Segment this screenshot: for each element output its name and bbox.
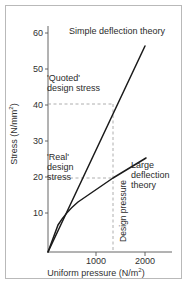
x-axis-title: Uniform pressure (N/m2)	[26, 266, 166, 278]
y-tick-label-20: 20	[25, 172, 43, 182]
y-axis-title: Stress (N/mm2)	[7, 94, 19, 174]
annotation-large-line-2: deflection	[131, 170, 170, 180]
x-axis-title-close: )	[142, 268, 145, 278]
annotation-quoted-line-2: design stress	[47, 83, 100, 93]
annotation-design-pressure: Design pressure	[118, 180, 128, 242]
annotation-large-line-1: Large	[131, 160, 170, 170]
annotation-real-line-3: stress	[47, 172, 74, 182]
y-tick-label-40: 40	[25, 100, 43, 110]
annotation-large-line-3: theory	[131, 180, 170, 190]
y-tick-label-50: 50	[25, 64, 43, 74]
annotation-real-design-stress: 'Real' design stress	[47, 152, 74, 182]
annotation-real-line-1: 'Real'	[47, 152, 74, 162]
x-tick-label-1000: 1000	[78, 256, 114, 266]
annotation-large-deflection-theory: Large deflection theory	[131, 160, 170, 190]
figure-container: 60 50 40 30 20 10 1000 2000 Stress (N/mm…	[0, 0, 189, 297]
y-tick-label-60: 60	[25, 28, 43, 38]
y-axis-title-close: )	[9, 103, 19, 106]
y-axis-title-text: Stress (N/mm	[9, 110, 19, 165]
x-axis-title-text: Uniform pressure (N/m	[47, 268, 138, 278]
y-tick-label-10: 10	[25, 208, 43, 218]
annotation-simple-deflection-theory: Simple deflection theory	[69, 26, 165, 36]
annotation-real-line-2: design	[47, 162, 74, 172]
y-tick-label-30: 30	[25, 136, 43, 146]
chart-plot-area	[0, 0, 189, 297]
y-axis-title-sup: 2	[7, 106, 14, 109]
annotation-quoted-design-stress: 'Quoted' design stress	[47, 73, 100, 93]
x-tick-label-2000: 2000	[127, 256, 163, 266]
annotation-quoted-line-1: 'Quoted'	[47, 73, 100, 83]
